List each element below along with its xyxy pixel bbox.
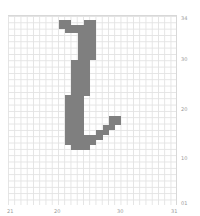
- x-tick-label: 31: [171, 208, 177, 214]
- x-tick-label: 20: [54, 208, 60, 214]
- filled-cell: [109, 116, 121, 125]
- y-tick-label: 30: [181, 56, 187, 62]
- y-tick-label: 20: [181, 106, 187, 112]
- filled-cell: [78, 29, 96, 60]
- x-tick-label: 21: [7, 208, 13, 214]
- y-tick-label: 10: [181, 155, 187, 161]
- y-tick-label: 01: [181, 200, 187, 206]
- filled-cell: [71, 60, 90, 96]
- filled-cell: [71, 145, 90, 150]
- filled-cell: [65, 95, 84, 145]
- filled-cell: [90, 140, 96, 145]
- x-tick-label: 30: [117, 208, 123, 214]
- y-tick-label: 34: [181, 15, 187, 21]
- filled-cell: [96, 130, 103, 140]
